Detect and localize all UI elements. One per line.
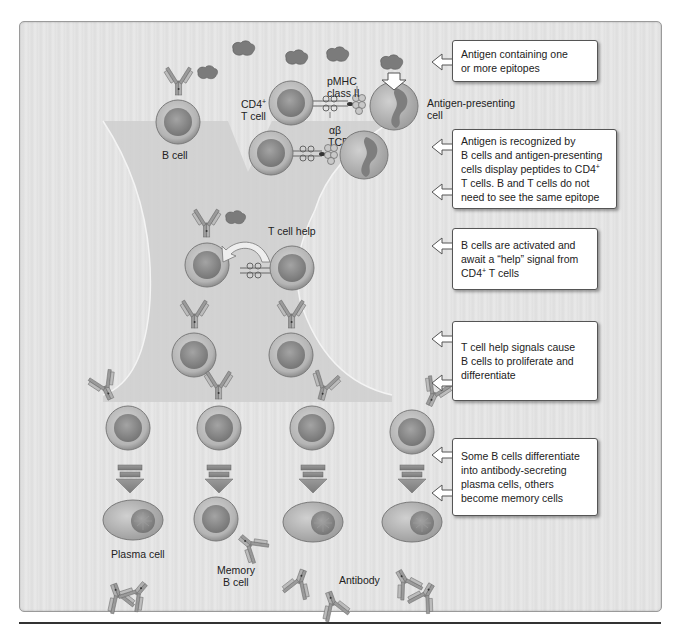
apc-label: Antigen-presenting: [427, 97, 515, 109]
callout-differentiation: Some B cells differentiate into antibody…: [452, 438, 598, 516]
cd4-t-cell-label-line2: T cell: [241, 110, 266, 122]
cd4-t-cell-label: CD4+: [241, 98, 266, 110]
callout-line: T cells. B and T cells do not: [461, 176, 608, 190]
callout-antigen: Antigen containing one or more epitopes: [452, 40, 598, 82]
pointer-arrow-icon: [432, 139, 454, 155]
callout-line: Antigen containing one: [461, 47, 589, 61]
plasma-cell: [283, 502, 343, 542]
callout-line: into antibody-secreting: [461, 463, 589, 477]
plasma-cell-label: Plasma cell: [111, 548, 165, 560]
callout-line: Antigen is recognized by: [461, 134, 608, 148]
cd4-t-cell: [270, 246, 314, 290]
t-cell-help-label: T cell help: [268, 225, 316, 237]
antibody-label: Antibody: [339, 574, 381, 586]
antibody-icon: [314, 587, 353, 624]
callout-recognition: Antigen is recognized by B cells and ant…: [452, 129, 617, 209]
plasma-cell: [103, 500, 163, 540]
antibody-icon: [279, 565, 318, 602]
callout-line: B cells and antigen-presenting: [461, 148, 608, 162]
callout-line: await a “help” signal from: [461, 252, 589, 266]
pmhc-label-line2: class II: [327, 87, 360, 99]
antigen-presenting-cell: [340, 131, 388, 179]
cd4-t-cell: [249, 131, 293, 175]
callout-proliferation: T cell help signals cause B cells to pro…: [452, 321, 598, 401]
callout-activation: B cells are activated and await a “help”…: [452, 228, 598, 290]
pointer-arrow-icon: [432, 238, 454, 254]
pointer-arrow-icon: [432, 184, 454, 200]
callout-line: cells display peptides to CD4+: [461, 162, 608, 176]
callout-line: T cell help signals cause: [461, 340, 589, 354]
pmhc-label: pMHC: [327, 75, 357, 87]
callout-line: Some B cells differentiate: [461, 449, 589, 463]
callout-line: B cells to proliferate and: [461, 354, 589, 368]
pointer-arrow-icon: [432, 331, 454, 347]
callout-line: need to see the same epitope: [461, 190, 608, 204]
memory-b-cell: [194, 497, 272, 567]
callout-line: or more epitopes: [461, 61, 589, 75]
memory-b-cell-label-line2: B cell: [223, 576, 249, 588]
antibody-icon: [99, 579, 138, 616]
antigen-icon: [381, 55, 403, 69]
plasma-cell: [382, 502, 442, 542]
tcr-label: αβ: [329, 124, 341, 136]
apc-label-line2: cell: [427, 109, 443, 121]
cd4-t-cell: [269, 81, 313, 125]
b-cell-activation-diagram: B cell CD4+ T cell pMHC class II αβ TCR …: [0, 0, 679, 631]
antigen-icon: [286, 50, 308, 64]
antigen-icon: [327, 47, 349, 61]
pointer-arrow-icon: [432, 447, 454, 463]
callout-line: CD4+ T cells: [461, 266, 589, 280]
callout-line: B cells are activated and: [461, 238, 589, 252]
differentiation-arrow-icon: [398, 465, 426, 493]
bottom-rule: [19, 622, 661, 624]
differentiation-arrow-icon: [205, 465, 233, 493]
antigen-icon: [233, 41, 255, 55]
antibody-icon: [115, 574, 157, 615]
pointer-arrow-icon: [432, 485, 454, 501]
callout-line: become memory cells: [461, 491, 589, 505]
differentiation-arrow-icon: [116, 465, 144, 493]
memory-b-cell-label: Memory: [217, 564, 256, 576]
callout-line: differentiate: [461, 368, 589, 382]
b-cell-label: B cell: [162, 149, 188, 161]
callout-line: plasma cells, others: [461, 477, 589, 491]
pointer-arrow-icon: [432, 54, 454, 70]
differentiation-arrow-icon: [299, 465, 327, 493]
